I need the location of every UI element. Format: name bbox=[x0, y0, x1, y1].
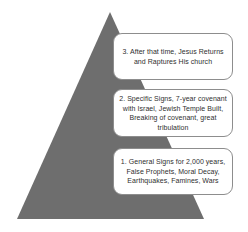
stage-1-text: 1. General Signs for 2,000 years, False … bbox=[121, 157, 225, 186]
pyramid-diagram: 3. After that time, Jesus Returns and Ra… bbox=[0, 0, 248, 232]
stage-box-2: 2. Specific Signs, 7-year covenant with … bbox=[113, 89, 233, 137]
stage-3-text: 3. After that time, Jesus Returns and Ra… bbox=[122, 47, 223, 66]
stage-2-text: 2. Specific Signs, 7-year covenant with … bbox=[119, 94, 227, 132]
stage-box-1: 1. General Signs for 2,000 years, False … bbox=[113, 148, 233, 195]
stage-box-3: 3. After that time, Jesus Returns and Ra… bbox=[113, 33, 233, 80]
